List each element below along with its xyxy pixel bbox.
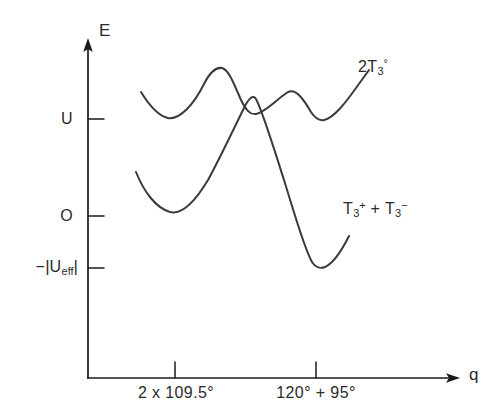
upper-base: 2T (358, 58, 377, 75)
x-axis-title: q (469, 366, 479, 383)
y-tick-label-U: U (47, 111, 73, 127)
lower-part2-base: T (385, 200, 395, 217)
lower-part2-superscript: − (401, 199, 407, 211)
lower-part1-base: T (343, 200, 353, 217)
curve-label-T3plus-T3minus: T3+ + T3− (343, 200, 408, 219)
lower-plus-sign: + (366, 200, 385, 217)
curve-2T3-neutral (141, 68, 369, 120)
y-axis-title: E (99, 22, 111, 39)
x-axis (88, 373, 460, 383)
abs-bar-right: | (74, 257, 78, 276)
ueff-base: U (50, 258, 62, 275)
configuration-coordinate-figure: E q U O −|Ueff| 2 x 109.5° 120° + 95° 2T… (0, 0, 492, 414)
y-axis (83, 38, 93, 378)
minus-sign: − (35, 258, 45, 275)
x-axis-ticks (175, 362, 316, 378)
plot-canvas (0, 0, 492, 414)
y-tick-label-zero: O (47, 208, 73, 224)
y-axis-ticks (88, 119, 104, 268)
curve-label-2T3-neutral: 2T3° (358, 58, 388, 77)
upper-superscript: ° (384, 57, 388, 69)
ueff-subscript: eff (62, 265, 74, 277)
x-tick-label-2: 120° + 95° (263, 385, 369, 401)
y-tick-label-minus-ueff: −|Ueff| (4, 258, 78, 277)
curve-T3plus-T3minus (136, 97, 349, 268)
x-tick-label-1: 2 x 109.5° (120, 385, 232, 401)
